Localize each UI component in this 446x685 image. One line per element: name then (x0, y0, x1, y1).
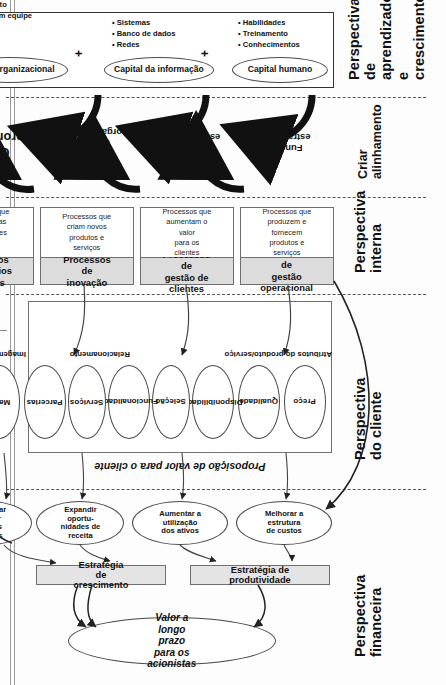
perspective-label-cliente: Perspectiva do cliente (352, 377, 384, 460)
customer-oval-qualidade: Qualidade (238, 365, 280, 439)
customer-oval-funcionalidade: Funcionalidade (108, 365, 150, 439)
process-title-regulatorios-sociais: Processos regulatórios e sociais (0, 257, 34, 285)
process-body-regulatorios-sociais: Processos que melhoram as comunidades e … (0, 207, 34, 257)
customer-oval-preco: Preço (284, 365, 326, 439)
customer-oval-parcerias: Parcerias (24, 365, 66, 439)
divider-alinhamento-aprendizado (6, 97, 426, 98)
process-body-gestao-operacional: Processos que produzem e fornecem produt… (240, 207, 334, 257)
capital-humano-oval: Capital humano (232, 57, 328, 83)
customer-oval-servicos: Serviços (68, 365, 106, 439)
process-title-inovacao: Processos de inovação (40, 257, 134, 285)
process-title-gestao-operacional: Processos de gestão operacional (240, 257, 334, 285)
perspective-label-aprendizado: Perspectiva de aprendizado e crescimento (346, 0, 427, 80)
financial-goal-oval: Valor a longo prazo para os acionistas (68, 617, 276, 665)
plus-sign-2: + (72, 50, 86, 57)
capital-informacao-oval: Capital da informação (104, 57, 214, 83)
process-title-gestao-clientes: Processos de gestão de clientes (140, 257, 234, 285)
perspective-label-interna: Perspectiva interna (352, 190, 384, 273)
divider-cliente-interna (6, 294, 426, 295)
strategy-productivity-box: Estratégia de produtividade (190, 565, 330, 585)
strategy-growth-box: Estratégia de crescimento (36, 565, 166, 585)
plus-sign-1: + (198, 50, 212, 57)
process-body-inovacao: Processos que criam novos produtos e ser… (40, 207, 134, 257)
perspective-label-alinhamento: Criar alinhamento (356, 104, 384, 179)
objective-aumentar-valor: Aumentar o valor para os clientes (0, 501, 32, 545)
customer-oval-marca: Marca (0, 365, 20, 439)
strategy-map-stage: Perspectiva financeira Perspectiva do cl… (0, 0, 432, 685)
process-body-gestao-clientes: Processos que aumentam o valor para os c… (140, 207, 234, 257)
document-page: Perspectiva financeira Perspectiva do cl… (0, 0, 446, 685)
objective-aumentar-utilizacao: Aumentar a utilização dos ativos (132, 501, 228, 545)
objective-melhorar-custos: Melhorar a estrutura de custos (236, 501, 332, 545)
perspective-label-financeira: Perspectiva financeira (352, 574, 384, 657)
objective-expandir-receita: Expandir oportu- nidades de receita (36, 501, 124, 545)
customer-oval-disponibilidade: Disponibilidade (192, 365, 234, 439)
divider-financeira-cliente (6, 489, 426, 490)
